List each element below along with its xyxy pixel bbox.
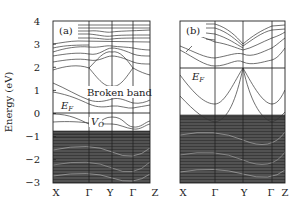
fermi-label-b: EF xyxy=(191,71,205,84)
panel-a: (a) Broken band EF VO X Γ Y Γ Z xyxy=(52,21,158,198)
conduction-band-b4 xyxy=(180,48,285,66)
conduction-band-b7 xyxy=(206,24,285,44)
conduction-band-b5 xyxy=(180,38,285,58)
kpoint-label-x-b: X xyxy=(179,187,187,198)
panel-a-label: (a) xyxy=(59,25,73,36)
panel-b-label: (b) xyxy=(186,25,200,36)
y-tick-0: 0 xyxy=(34,108,40,119)
vo-label: VO xyxy=(91,116,104,129)
kpoint-label-gamma1-a: Γ xyxy=(86,187,93,198)
conduction-band-4 xyxy=(53,48,150,56)
kpoint-label-x-a: X xyxy=(52,187,60,198)
y-tick-neg1: −1 xyxy=(25,131,40,142)
kpoint-label-gamma1-b: Γ xyxy=(212,187,219,198)
kpoint-label-y-b: Y xyxy=(240,187,248,198)
kpoint-label-z-a: Z xyxy=(152,187,159,198)
y-tick-3: 3 xyxy=(34,39,40,50)
kpoint-label-y-a: Y xyxy=(106,187,114,198)
conduction-arc-2 xyxy=(89,68,133,86)
kpoint-label-gamma2-a: Γ xyxy=(130,187,137,198)
broken-band-label: Broken band xyxy=(87,87,153,98)
panel-b: (b) EF X Γ Y Γ Z xyxy=(179,21,288,198)
y-tick-1: 1 xyxy=(34,85,40,96)
y-tick-4: 4 xyxy=(34,16,40,27)
y-tick-labels: 4 3 2 1 0 −1 −2 −3 xyxy=(25,16,40,189)
conduction-band-5 xyxy=(53,46,150,52)
conduction-band-3 xyxy=(53,56,150,64)
band-structure-figure: Energy (eV) 4 3 2 1 0 −1 −2 −3 xyxy=(0,0,304,209)
valence-band-region-b xyxy=(180,115,285,183)
kpoint-label-z-b: Z xyxy=(282,187,289,198)
kpoint-labels-a: X Γ Y Γ Z xyxy=(52,187,158,198)
y-tick-neg3: −3 xyxy=(25,177,40,188)
kpoint-label-gamma2-b: Γ xyxy=(268,187,275,198)
fermi-label-a: EF xyxy=(60,100,74,113)
y-tick-neg2: −2 xyxy=(25,154,40,165)
y-axis-label: Energy (eV) xyxy=(3,72,14,133)
conduction-band-b2 xyxy=(180,68,243,122)
conduction-band-b3 xyxy=(243,68,285,122)
y-tick-2: 2 xyxy=(34,62,40,73)
conduction-band-b8 xyxy=(206,28,285,46)
kpoint-labels-b: X Γ Y Γ Z xyxy=(179,187,288,198)
conduction-arc-1 xyxy=(53,52,150,75)
conduction-band-b10 xyxy=(206,39,215,40)
